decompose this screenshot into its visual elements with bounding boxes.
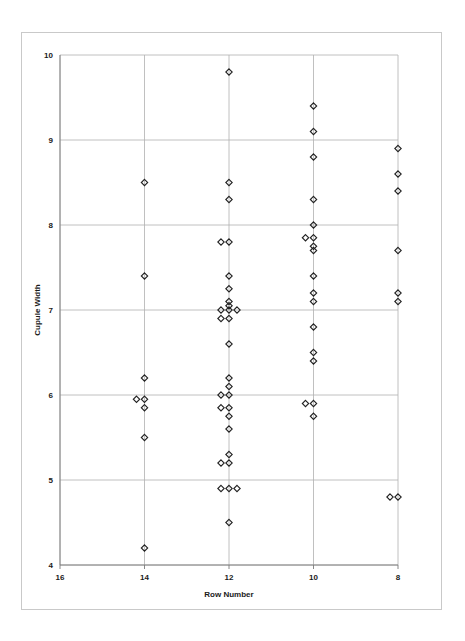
- y-tick-label: 8: [49, 221, 54, 230]
- x-axis-tick-labels: 161412108: [56, 565, 401, 582]
- scatter-chart: 45678910 161412108 Row Number Cupule Wid…: [0, 0, 465, 641]
- y-tick-label: 10: [44, 51, 53, 60]
- y-tick-label: 5: [49, 476, 54, 485]
- data-point-marker: [234, 485, 240, 491]
- x-axis-title: Row Number: [204, 590, 253, 599]
- data-point-marker: [218, 405, 224, 411]
- data-point-marker: [387, 494, 393, 500]
- data-point-marker: [218, 485, 224, 491]
- x-tick-label: 12: [225, 573, 234, 582]
- data-point-marker: [133, 396, 139, 402]
- data-point-marker: [302, 235, 308, 241]
- y-tick-label: 9: [49, 136, 54, 145]
- gridlines: [60, 55, 398, 565]
- figure-root: 45678910 161412108 Row Number Cupule Wid…: [0, 0, 465, 641]
- data-point-marker: [302, 400, 308, 406]
- y-axis-tick-labels: 45678910: [44, 51, 53, 570]
- x-tick-label: 14: [140, 573, 149, 582]
- y-tick-label: 7: [49, 306, 54, 315]
- x-tick-label: 10: [309, 573, 318, 582]
- y-axis-title: Cupule Width: [33, 284, 42, 336]
- x-tick-label: 8: [396, 573, 401, 582]
- data-point-marker: [218, 315, 224, 321]
- x-tick-label: 16: [56, 573, 65, 582]
- data-point-marker: [218, 460, 224, 466]
- data-point-marker: [218, 239, 224, 245]
- y-tick-label: 4: [49, 561, 54, 570]
- y-tick-label: 6: [49, 391, 54, 400]
